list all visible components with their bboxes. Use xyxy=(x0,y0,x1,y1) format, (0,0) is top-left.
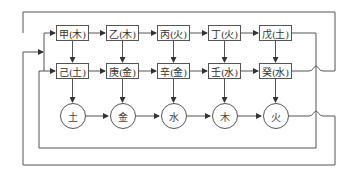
five-elements-flow-diagram: 甲(木) 乙(木) 丙(火) 丁(火) 戊(土) 己(土) 庚(金) 辛(金) … xyxy=(0,0,354,176)
node-yi: 乙(木) xyxy=(106,25,139,41)
node-xin: 辛(金) xyxy=(157,63,190,79)
element-metal: 金 xyxy=(110,103,136,129)
element-wood: 木 xyxy=(212,103,238,129)
node-wu: 戊(土) xyxy=(259,25,292,41)
node-bing: 丙(火) xyxy=(157,25,190,41)
node-jia: 甲(木) xyxy=(56,25,89,41)
node-geng: 庚(金) xyxy=(106,63,139,79)
node-ding: 丁(火) xyxy=(208,25,241,41)
node-ji: 己(土) xyxy=(56,63,89,79)
element-fire: 火 xyxy=(263,103,289,129)
element-earth: 土 xyxy=(60,103,86,129)
node-gui: 癸(水) xyxy=(259,63,292,79)
node-ren: 壬(水) xyxy=(208,63,241,79)
element-water: 水 xyxy=(161,103,187,129)
